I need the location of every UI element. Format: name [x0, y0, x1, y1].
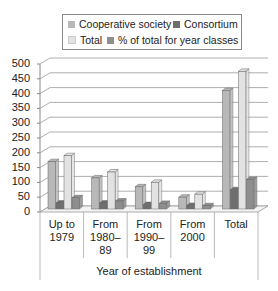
y-tick-label: 0: [0, 206, 30, 217]
x-category-label: From2000: [173, 218, 213, 244]
bar: [116, 199, 127, 209]
y-tick-label: 450: [0, 73, 30, 84]
y-tick-label: 250: [0, 132, 30, 143]
y-tick-label: 50: [0, 191, 30, 202]
bar: [72, 195, 83, 209]
y-tick-label: 500: [0, 58, 30, 69]
bar: [246, 177, 257, 209]
x-category-label: From1980–89: [85, 218, 125, 257]
y-tick-label: 300: [0, 117, 30, 128]
y-tick-label: 350: [0, 102, 30, 113]
x-category-label: Total: [216, 218, 256, 231]
x-category-label: Up to1979: [42, 218, 82, 244]
y-tick-label: 400: [0, 88, 30, 99]
y-tick-label: 100: [0, 176, 30, 187]
bar: [48, 159, 59, 209]
y-tick-label: 150: [0, 162, 30, 173]
x-category-label: From1990–99: [129, 218, 169, 257]
bar: [203, 203, 214, 209]
bar: [159, 201, 170, 209]
x-axis-label: Year of establishment: [40, 265, 258, 277]
y-tick-label: 200: [0, 147, 30, 158]
